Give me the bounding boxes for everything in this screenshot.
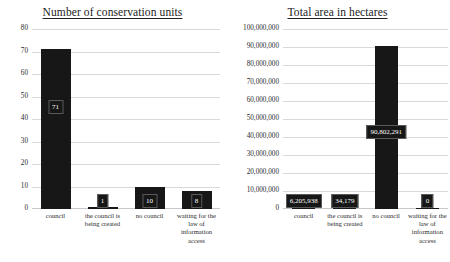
bar-value-label-waiting-law: 8 [191,194,203,208]
y-tick-left-80: 80 [21,25,32,32]
bar-value-label-council-being-created: 1 [97,194,109,208]
y-tick-right-20m: 20,000,000 [247,169,283,176]
y-tick-left-70: 70 [21,48,32,55]
y-tick-right-70m: 70,000,000 [247,79,283,86]
y-tick-right-0: 0 [275,205,283,212]
x-label-left-council: council [32,212,79,245]
bar-value-label-area-being-created: 34,179 [331,194,358,208]
x-label-left-no-council: no council [126,212,173,245]
chart-panel-conservation-units: Number of conservation units 80 70 60 50… [0,0,225,262]
x-label-right-no-council: no council [366,212,407,245]
dual-bar-chart-figure: Number of conservation units 80 70 60 50… [0,0,450,262]
x-label-right-council: council [283,212,324,245]
y-tick-left-20: 20 [21,160,32,167]
x-axis-labels-left: council the council is being created no … [32,209,220,245]
bar-slot-council: 71 [32,29,79,209]
plot-area-right: 100,000,000 90,000,000 80,000,000 70,000… [283,29,448,209]
bar-slot-no-council: 10 [126,29,173,209]
page-title-right: Total area in hectares [225,6,450,18]
bar-series-left: 71 1 10 8 [32,29,220,209]
y-tick-right-10m: 10,000,000 [247,187,283,194]
bar-area-council[interactable]: 6,205,938 [292,198,315,209]
bar-waiting-law[interactable]: 8 [182,191,212,209]
bar-slot-area-no-council: 90,802,291 [366,29,407,209]
bar-value-label-area-waiting-law: 0 [422,194,434,208]
bar-slot-waiting-law: 8 [173,29,220,209]
bar-area-no-council[interactable]: 90,802,291 [375,46,398,209]
bar-value-label-council: 71 [48,100,63,114]
y-tick-left-0: 0 [24,205,32,212]
y-tick-left-50: 50 [21,93,32,100]
bar-slot-area-council: 6,205,938 [283,29,324,209]
bar-value-label-area-council: 6,205,938 [286,194,322,208]
y-tick-right-40m: 40,000,000 [247,133,283,140]
bar-council[interactable]: 71 [41,49,71,209]
x-label-left-being-created: the council is being created [79,212,126,245]
bar-slot-council-being-created: 1 [79,29,126,209]
x-label-left-waiting-law: waiting for the law of information acces… [173,212,220,245]
plot-area-left: 80 70 60 50 40 30 20 10 0 71 1 [32,29,220,209]
y-tick-right-100m: 100,000,000 [243,25,283,32]
bar-series-right: 6,205,938 34,179 90,802,291 0 [283,29,448,209]
chart-panel-total-area: Total area in hectares 100,000,000 90,00… [225,0,450,262]
y-tick-left-10: 10 [21,183,32,190]
x-label-right-waiting-law: waiting for the law of information acces… [407,212,448,245]
y-tick-left-40: 40 [21,115,32,122]
bar-slot-area-being-created: 34,179 [324,29,365,209]
y-tick-left-30: 30 [21,138,32,145]
y-tick-right-50m: 50,000,000 [247,115,283,122]
bar-value-label-area-no-council: 90,802,291 [366,125,406,139]
bar-slot-area-waiting-law: 0 [407,29,448,209]
y-tick-right-90m: 90,000,000 [247,43,283,50]
y-tick-right-30m: 30,000,000 [247,151,283,158]
y-tick-right-60m: 60,000,000 [247,97,283,104]
bar-value-label-no-council: 10 [142,194,157,208]
page-title-left: Number of conservation units [0,6,225,18]
x-label-right-being-created: the council is being created [324,212,365,245]
bar-no-council[interactable]: 10 [135,187,165,210]
y-tick-left-60: 60 [21,70,32,77]
y-tick-right-80m: 80,000,000 [247,61,283,68]
x-axis-labels-right: council the council is being created no … [283,209,448,245]
